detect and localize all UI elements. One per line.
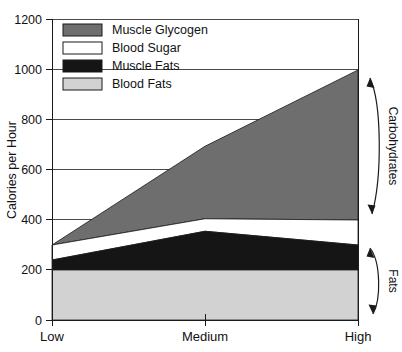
y-tick-label-1000: 1000 [14,63,42,77]
carbohydrates-arrow-down-icon [368,205,376,215]
x-tick-label-high: High [345,329,372,344]
stacked-area-chart: 1200 1000 800 600 400 200 0 Calories per… [0,0,402,352]
x-tick-label-medium: Medium [182,329,228,344]
x-tick-label-low: Low [40,329,64,344]
carbohydrates-bracket-curve [370,78,379,214]
legend-swatch-muscle-glycogen [63,24,102,36]
legend-swatch-blood-fats [63,78,102,90]
y-tick-label-600: 600 [21,163,42,177]
legend-label-blood-fats: Blood Fats [112,77,172,91]
carbohydrates-arrow-up-icon [367,78,375,88]
y-tick-label-1200: 1200 [14,13,42,27]
bracket-carbohydrates: Carbohydrates [367,78,401,214]
legend-label-muscle-fats: Muscle Fats [112,59,179,73]
fats-bracket-label: Fats [386,269,400,292]
bracket-fats: Fats [367,248,401,314]
y-tick-label-400: 400 [21,213,42,227]
y-axis-title: Calories per Hour [5,121,19,219]
y-tick-label-200: 200 [21,263,42,277]
legend-swatch-muscle-fats [63,60,102,72]
legend-label-muscle-glycogen: Muscle Glycogen [112,23,208,37]
legend-swatch-blood-sugar [63,42,102,54]
area-blood-fats [52,270,358,320]
y-tick-label-0: 0 [35,314,42,328]
carbohydrates-bracket-label: Carbohydrates [386,107,400,186]
legend-label-blood-sugar: Blood Sugar [112,41,181,55]
chart-canvas: 1200 1000 800 600 400 200 0 Calories per… [0,0,402,352]
y-tickmarks [46,20,52,321]
y-tick-label-800: 800 [21,113,42,127]
